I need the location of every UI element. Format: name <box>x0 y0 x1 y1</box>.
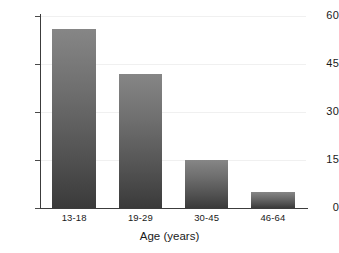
y-axis-tick-mark <box>35 64 40 65</box>
x-axis-tick-label: 19-29 <box>107 213 173 223</box>
x-axis-tick-label: 46-64 <box>240 213 306 223</box>
y-axis-tick-label: 15 <box>310 154 339 165</box>
x-axis-tick-label: 30-45 <box>174 213 240 223</box>
gridline <box>41 16 306 17</box>
y-axis-tick-label: 60 <box>310 10 339 21</box>
y-axis-tick-mark <box>35 112 40 113</box>
bar-chart-figure: 015304560 13-1819-2930-4546-64 Age (year… <box>0 0 339 253</box>
bar-13-18 <box>52 29 96 208</box>
y-axis-tick-mark <box>35 16 40 17</box>
x-axis-line <box>40 208 308 209</box>
y-axis-tick-label: 30 <box>310 106 339 117</box>
y-axis-tick-mark <box>35 160 40 161</box>
plot-area <box>41 16 306 208</box>
x-axis-title: Age (years) <box>0 231 339 243</box>
bar-46-64 <box>251 192 295 208</box>
y-axis-tick-mark <box>35 208 40 209</box>
bar-30-45 <box>185 160 229 208</box>
y-axis-tick-label: 0 <box>310 202 339 213</box>
x-axis-tick-label: 13-18 <box>41 213 107 223</box>
y-axis-tick-label: 45 <box>310 58 339 69</box>
bar-19-29 <box>119 74 163 208</box>
